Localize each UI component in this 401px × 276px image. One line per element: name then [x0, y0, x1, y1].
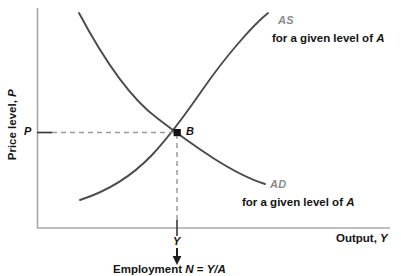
x-tick-label-y: Y — [173, 236, 180, 247]
as-curve-label: AS — [278, 15, 294, 26]
y-axis-title-wrap: Price level, P — [0, 0, 30, 276]
as-curve-path — [80, 13, 268, 200]
employment-note-expr: Y/A — [207, 263, 226, 275]
ad-caption-var: A — [346, 196, 354, 208]
y-axis-title-text: Price level, — [6, 100, 18, 160]
equilibrium-point-label: B — [186, 126, 194, 137]
economics-diagram: Price level, P P B Y AS for a given leve… — [0, 0, 401, 276]
ad-curve-caption: for a given level of A — [242, 197, 355, 209]
y-axis-title-var: P — [6, 89, 18, 97]
employment-note-var: N — [185, 263, 193, 275]
ad-caption-text: for a given level of — [242, 196, 343, 208]
x-axis-title-var: Y — [380, 232, 388, 244]
ad-curve-label: AD — [270, 179, 286, 190]
as-curve-caption: for a given level of A — [272, 33, 385, 45]
y-tick-label-p: P — [24, 126, 31, 137]
as-caption-var: A — [376, 32, 384, 44]
employment-note-eq: = — [197, 263, 204, 275]
employment-note: Employment N = Y/A — [113, 264, 226, 276]
x-axis-title-text: Output, — [336, 232, 377, 244]
y-axis-title: Price level, P — [7, 60, 19, 190]
as-caption-text: for a given level of — [272, 32, 373, 44]
equilibrium-point-marker — [174, 129, 181, 136]
ad-curve-path — [79, 13, 265, 184]
x-axis-title: Output, Y — [336, 233, 388, 245]
employment-note-prefix: Employment — [113, 263, 182, 275]
